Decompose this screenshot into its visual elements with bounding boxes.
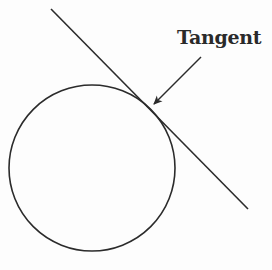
- label-arrow-icon: [154, 57, 201, 104]
- diagram-canvas: Tangent: [0, 0, 272, 270]
- tangent-label: Tangent: [177, 26, 261, 48]
